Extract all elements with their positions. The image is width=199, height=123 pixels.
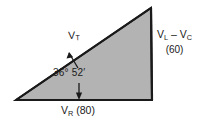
label-vc-subscript: C xyxy=(187,33,192,42)
label-vr-subscript: R xyxy=(68,109,73,118)
label-vr-value: (80) xyxy=(76,104,95,116)
label-vt: VT xyxy=(68,30,80,43)
label-vl-minus-vc-value: (60) xyxy=(157,45,192,56)
label-vl-minus-vc-group: VL – VC (60) xyxy=(157,29,192,56)
label-angle: 36° 52′ xyxy=(53,68,85,79)
label-vl-minus-vc: VL – VC xyxy=(157,29,192,41)
label-vl-subscript: L xyxy=(164,33,168,42)
label-vr-symbol: V xyxy=(61,104,68,116)
label-vc-symbol: V xyxy=(180,28,187,40)
triangle-vertical-edge xyxy=(151,8,152,100)
phasor-diagram: VT VL – VC (60) 36° 52′ VR (80) xyxy=(0,0,199,123)
label-angle-minutes: 52′ xyxy=(72,67,86,78)
label-angle-degrees: 36° xyxy=(53,67,69,78)
label-vt-subscript: T xyxy=(75,33,80,42)
label-vl-symbol: V xyxy=(157,28,164,40)
label-minus-operator: – xyxy=(171,28,177,40)
label-vr: VR (80) xyxy=(61,105,95,117)
phasor-triangle-svg xyxy=(0,0,199,123)
